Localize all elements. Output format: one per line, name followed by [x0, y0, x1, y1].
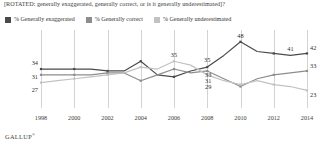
- data-label: 35: [204, 57, 210, 64]
- data-point: [306, 52, 308, 54]
- chart-container: [ROTATED: generally exaggerated, general…: [0, 0, 320, 148]
- data-point: [40, 68, 42, 70]
- legend-swatch-exaggerated: [5, 17, 11, 23]
- data-point: [173, 68, 175, 70]
- data-point: [106, 70, 108, 72]
- data-label: 31: [32, 74, 38, 81]
- x-axis-tick: 1998: [35, 114, 47, 122]
- legend-swatch-correct: [86, 17, 92, 23]
- data-point: [273, 52, 275, 54]
- x-axis-tick: 2000: [68, 114, 80, 122]
- data-point: [239, 83, 241, 85]
- legend-swatch-underestimated: [154, 17, 160, 23]
- data-label: 41: [287, 46, 293, 53]
- data-label: 29: [205, 84, 211, 91]
- x-axis-tick: 2010: [234, 114, 246, 122]
- legend-label-exaggerated: % Generally exaggerated: [14, 16, 75, 23]
- data-point: [173, 60, 175, 62]
- data-point: [140, 66, 142, 68]
- data-point: [173, 76, 175, 78]
- data-point: [73, 78, 75, 80]
- legend-item-correct: % Generally correct: [86, 16, 143, 23]
- plot-area: 34354841423133332735312329: [0, 28, 320, 118]
- x-axis-tick: 2012: [268, 114, 280, 122]
- gallup-logo: GALLUP®: [5, 132, 35, 140]
- chart-legend: % Generally exaggerated % Generally corr…: [5, 16, 231, 23]
- data-point: [40, 74, 42, 76]
- line--generally-exaggerated: [41, 42, 307, 77]
- x-axis-tick: 2014: [301, 114, 313, 122]
- data-label: 34: [32, 60, 38, 67]
- legend-item-exaggerated: % Generally exaggerated: [5, 16, 75, 23]
- data-label: 27: [32, 87, 38, 94]
- data-point: [239, 85, 241, 87]
- legend-label-underestimated: % Generally underestimated: [163, 16, 231, 23]
- gallup-wordmark: GALLUP: [5, 133, 32, 140]
- data-point: [73, 74, 75, 76]
- registered-mark: ®: [32, 132, 35, 137]
- data-point: [140, 60, 142, 62]
- data-point: [206, 66, 208, 68]
- data-point: [306, 89, 308, 91]
- x-axis-tick: 2004: [135, 114, 147, 122]
- x-axis-tick: 2002: [101, 114, 113, 122]
- legend-label-correct: % Generally correct: [95, 16, 143, 23]
- x-axis-tick: 2006: [168, 114, 180, 122]
- data-label: 42: [310, 45, 316, 52]
- legend-item-underestimated: % Generally underestimated: [154, 16, 231, 23]
- data-point: [106, 72, 108, 74]
- chart-question-title: [ROTATED: generally exaggerated, general…: [4, 1, 318, 8]
- data-label: 48: [237, 33, 243, 40]
- data-label: 33: [310, 63, 316, 70]
- series-lines: [0, 28, 320, 118]
- data-point: [106, 74, 108, 76]
- data-point: [73, 68, 75, 70]
- data-point: [273, 74, 275, 76]
- data-point: [239, 41, 241, 43]
- data-point: [306, 70, 308, 72]
- data-point: [273, 83, 275, 85]
- x-axis-tick: 2008: [201, 114, 213, 122]
- data-point: [140, 80, 142, 82]
- x-axis: 199820002002200420062008201020122014: [0, 114, 320, 126]
- data-label: 23: [310, 92, 316, 99]
- data-point: [40, 82, 42, 84]
- data-label: 35: [171, 52, 177, 59]
